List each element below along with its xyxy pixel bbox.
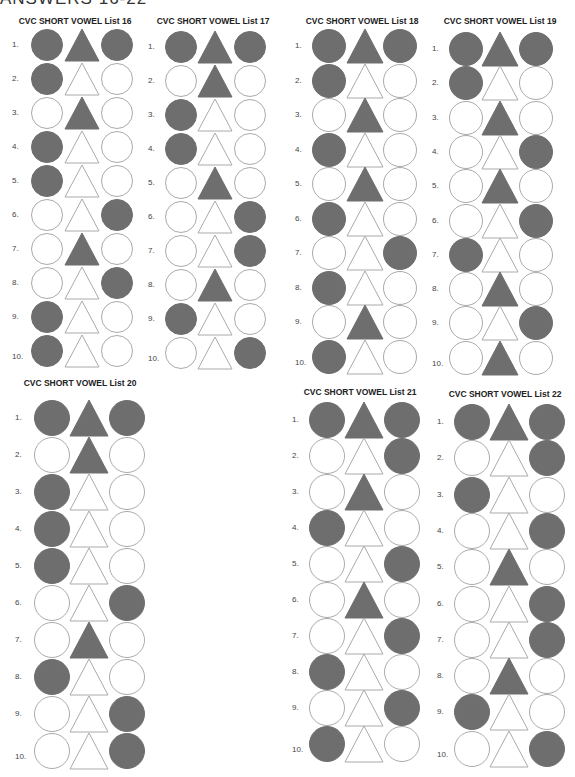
filled-triangle-icon [489,657,529,695]
filled-circle-icon [31,165,63,197]
row-number: 1. [12,40,19,49]
outline-circle-icon [312,167,346,201]
outline-circle-icon [454,658,490,694]
outline-circle-icon [519,169,553,203]
row-number: 8. [295,283,302,292]
outline-triangle-icon [344,617,384,655]
filled-triangle-icon [346,28,384,64]
row-number: 6. [12,210,19,219]
filled-circle-icon [383,236,417,270]
row-number: 4. [15,524,22,533]
list-title: CVC SHORT VOWEL List 21 [304,387,417,397]
outline-circle-icon [101,165,133,197]
outline-triangle-icon [64,62,100,96]
row-number: 6. [432,216,439,225]
outline-circle-icon [165,235,197,267]
outline-circle-icon [165,201,197,233]
outline-circle-icon [234,167,266,199]
list-title: CVC SHORT VOWEL List 22 [449,389,562,399]
outline-circle-icon [519,66,553,100]
outline-triangle-icon [481,65,519,101]
row-number: 5. [292,559,299,568]
filled-circle-icon [31,301,63,333]
filled-triangle-icon [69,621,109,659]
row-number: 9. [15,709,22,718]
filled-circle-icon [309,654,345,690]
filled-triangle-icon [64,96,100,130]
outline-circle-icon [34,622,70,658]
row-number: 7. [295,248,302,257]
list-title: CVC SHORT VOWEL List 20 [24,378,137,388]
list-title: CVC SHORT VOWEL List 16 [19,16,132,26]
outline-triangle-icon [64,266,100,300]
row-number: 3. [15,487,22,496]
outline-triangle-icon [489,476,529,514]
filled-triangle-icon [481,340,519,376]
filled-triangle-icon [197,30,233,64]
outline-circle-icon [234,99,266,131]
row-number: 7. [432,250,439,259]
row-number: 4. [295,145,302,154]
outline-circle-icon [165,269,197,301]
row-number: 3. [148,110,155,119]
outline-triangle-icon [489,512,529,550]
outline-circle-icon [109,622,145,658]
filled-circle-icon [384,618,420,654]
outline-circle-icon [31,267,63,299]
row-number: 7. [292,631,299,640]
row-number: 2. [15,450,22,459]
outline-triangle-icon [344,689,384,727]
outline-triangle-icon [346,63,384,99]
row-number: 5. [295,179,302,188]
outline-circle-icon [383,202,417,236]
row-number: 8. [437,671,444,680]
outline-circle-icon [101,63,133,95]
row-number: 9. [437,707,444,716]
outline-triangle-icon [69,510,109,548]
row-number: 2. [292,451,299,460]
filled-circle-icon [449,66,483,100]
row-number: 1. [148,42,155,51]
outline-circle-icon [384,582,420,618]
row-number: 6. [15,598,22,607]
outline-circle-icon [109,474,145,510]
outline-circle-icon [454,586,490,622]
outline-triangle-icon [346,339,384,375]
outline-circle-icon [383,340,417,374]
row-number: 10. [292,745,303,754]
row-number: 1. [292,415,299,424]
filled-circle-icon [309,726,345,762]
row-number: 10. [12,352,23,361]
row-number: 4. [148,144,155,153]
filled-circle-icon [109,585,145,621]
filled-circle-icon [309,510,345,546]
list-title: CVC SHORT VOWEL List 19 [444,16,557,26]
row-number: 4. [12,142,19,151]
row-number: 8. [12,278,19,287]
outline-circle-icon [165,167,197,199]
list-title: CVC SHORT VOWEL List 17 [157,16,270,26]
outline-circle-icon [165,337,197,369]
filled-circle-icon [529,731,565,767]
outline-circle-icon [529,549,565,585]
outline-triangle-icon [346,201,384,237]
outline-circle-icon [529,658,565,694]
filled-triangle-icon [489,403,529,441]
outline-triangle-icon [69,658,109,696]
filled-circle-icon [449,32,483,66]
filled-circle-icon [454,477,490,513]
filled-circle-icon [449,238,483,272]
row-number: 2. [295,76,302,85]
filled-triangle-icon [197,166,233,200]
outline-triangle-icon [489,730,529,768]
outline-triangle-icon [489,585,529,623]
outline-circle-icon [34,585,70,621]
row-number: 10. [437,750,448,759]
row-number: 9. [432,318,439,327]
outline-triangle-icon [346,235,384,271]
outline-circle-icon [234,65,266,97]
row-number: 8. [432,284,439,293]
row-number: 2. [148,76,155,85]
outline-circle-icon [34,733,70,769]
filled-triangle-icon [346,97,384,133]
